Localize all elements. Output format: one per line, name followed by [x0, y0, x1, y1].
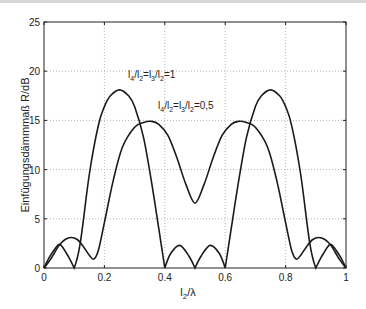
curve-ratio-0-5: [44, 121, 346, 268]
x-tick-label: 0.2: [97, 272, 111, 283]
x-tick-label: 0.6: [218, 272, 232, 283]
chart: 00.20.40.60.810510152025 l4/l2=l3/l2=1 l…: [0, 0, 366, 309]
x-tick-label: 0.4: [158, 272, 172, 283]
x-tick-label: 1: [343, 272, 349, 283]
data-curves: [44, 90, 346, 268]
y-axis-label: Einfügungsdämmmaß R/dB: [19, 77, 31, 212]
axes-box: [44, 22, 346, 268]
annotation-ratio-0-5: l4/l2=l3/l2=0,5: [158, 100, 214, 113]
x-axis-label: l2/λ: [180, 286, 196, 301]
tick-labels: 00.20.40.60.810510152025: [29, 17, 349, 283]
y-tick-label: 20: [29, 66, 41, 77]
grid-lines: [44, 22, 346, 268]
x-tick-label: 0: [41, 272, 47, 283]
x-tick-label: 0.8: [279, 272, 293, 283]
curve-ratio-1: [44, 90, 346, 268]
annotation-ratio-1: l4/l2=l3/l2=1: [128, 69, 176, 82]
y-tick-label: 5: [34, 214, 40, 225]
y-tick-label: 25: [29, 17, 41, 28]
y-tick-label: 0: [34, 263, 40, 274]
